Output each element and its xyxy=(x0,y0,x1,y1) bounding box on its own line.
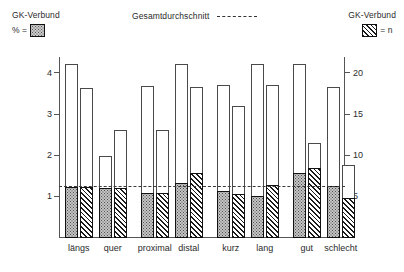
left-tick-label: 1 xyxy=(47,192,52,201)
bar-fill-percent xyxy=(293,173,306,238)
chart-figure: GK-Verbund % = Gesamtdurchschnitt GK-Ver… xyxy=(0,0,404,272)
bar-percent xyxy=(327,87,340,238)
bar-count xyxy=(342,165,355,238)
left-tick-label: 4 xyxy=(47,69,52,78)
bar-fill-count xyxy=(266,185,279,238)
bar-fill-percent xyxy=(141,193,154,238)
left-tick-mark xyxy=(54,114,59,115)
category-label: schlecht xyxy=(311,243,371,253)
right-tick-mark xyxy=(345,155,350,156)
right-tick-mark xyxy=(345,72,350,73)
left-tick-mark xyxy=(54,72,59,73)
bar-percent xyxy=(251,64,264,238)
bar-fill-count xyxy=(156,193,169,238)
bar-fill-percent xyxy=(65,187,78,238)
bar-percent xyxy=(217,85,230,238)
bar-count xyxy=(190,87,203,238)
right-tick-label: 20 xyxy=(353,69,363,78)
category-labels: längsquerproximaldistalkurzlanggutschlec… xyxy=(59,243,345,257)
left-tick-label: 2 xyxy=(47,151,52,160)
bar-percent xyxy=(175,64,188,238)
average-line xyxy=(59,186,345,187)
bar-count xyxy=(232,106,245,238)
stipple-swatch-icon xyxy=(30,24,45,37)
bar-percent xyxy=(141,86,154,238)
bar-fill-percent xyxy=(251,196,264,238)
bar-count xyxy=(114,130,127,238)
bar-fill-count xyxy=(308,168,321,238)
legend-center: Gesamtdurchschnitt xyxy=(132,11,257,22)
legend-right-symbol-label: = n xyxy=(380,25,392,36)
bar-fill-count xyxy=(80,187,93,238)
right-tick-label: 10 xyxy=(353,151,363,160)
left-tick-label: 3 xyxy=(47,110,52,119)
bar-fill-count xyxy=(342,198,355,238)
legend-left-row: % = xyxy=(12,24,67,37)
left-tick-mark xyxy=(54,196,59,197)
legend-left-title: GK-Verbund xyxy=(12,10,67,21)
legend-right-title: GK-Verbund xyxy=(348,10,396,21)
plot-area: 1234 5101520 xyxy=(59,57,345,238)
legend-left-symbol-label: % = xyxy=(12,25,27,36)
bar-percent xyxy=(99,156,112,238)
bar-count xyxy=(266,85,279,238)
bar-fill-count xyxy=(114,188,127,238)
legend-right: GK-Verbund = n xyxy=(348,10,396,37)
legend-left: GK-Verbund % = xyxy=(12,10,67,37)
hatch-swatch-icon xyxy=(362,24,377,37)
right-tick-label: 15 xyxy=(353,110,363,119)
bar-fill-percent xyxy=(327,186,340,238)
bar-fill-count xyxy=(190,173,203,238)
bar-fill-count xyxy=(232,194,245,238)
bar-count xyxy=(156,130,169,238)
bar-fill-percent xyxy=(217,191,230,238)
legend-center-row: Gesamtdurchschnitt xyxy=(132,11,257,22)
left-axis xyxy=(59,57,60,238)
bar-count xyxy=(80,88,93,238)
bar-count xyxy=(308,143,321,238)
bar-fill-percent xyxy=(99,188,112,238)
left-tick-mark xyxy=(54,155,59,156)
right-tick-mark xyxy=(345,114,350,115)
bar-percent xyxy=(293,64,306,238)
bar-fill-percent xyxy=(175,183,188,238)
bar-percent xyxy=(65,64,78,238)
legend-center-label: Gesamtdurchschnitt xyxy=(132,11,209,22)
legend-right-row: = n xyxy=(348,24,396,37)
dashed-line-icon xyxy=(217,16,257,17)
